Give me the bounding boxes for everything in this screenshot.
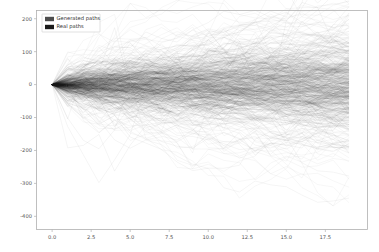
x-tick-label: 5.0	[126, 234, 134, 240]
x-tick-label: 15.0	[281, 234, 293, 240]
y-tick-label: 100	[22, 49, 32, 55]
legend-label: Real paths	[57, 23, 85, 30]
x-tick-label: 7.5	[165, 234, 173, 240]
x-tick-label: 0.0	[48, 234, 56, 240]
y-tick-label: -400	[20, 213, 32, 219]
legend-swatch	[45, 25, 54, 29]
y-tick-label: -300	[20, 180, 32, 186]
x-tick-label: 10.0	[202, 234, 214, 240]
legend-label: Generated paths	[57, 15, 101, 22]
y-tick-label: -100	[20, 114, 32, 120]
x-tick-label: 12.5	[241, 234, 253, 240]
y-tick-label: 200	[22, 16, 32, 22]
x-tick-label: 17.5	[320, 234, 332, 240]
legend-swatch	[45, 17, 54, 21]
chart-legend: Generated pathsReal paths	[42, 14, 100, 32]
y-tick-label: -200	[20, 147, 32, 153]
figure-canvas: 2001000-100-200-300-400 0.02.55.07.510.0…	[0, 0, 379, 252]
paths-fan-chart: 2001000-100-200-300-400 0.02.55.07.510.0…	[0, 0, 379, 252]
x-tick-label: 2.5	[87, 234, 95, 240]
y-tick-label: 0	[29, 81, 32, 87]
